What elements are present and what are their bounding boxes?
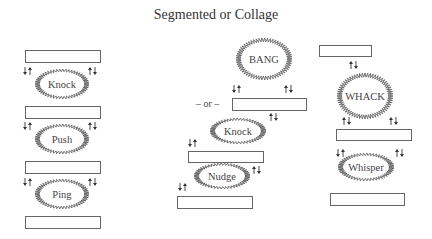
- arrow-down-icon: [257, 166, 261, 174]
- burst-label: Knock: [48, 79, 77, 90]
- burst-label: WHACK: [345, 91, 385, 102]
- segment-box: [337, 130, 412, 141]
- arrow-down-icon: [93, 122, 97, 130]
- burst-whisper: Whisper: [338, 153, 394, 181]
- burst-label: Push: [52, 134, 73, 145]
- arrow-down-icon: [23, 67, 27, 75]
- burst-label: Whisper: [348, 162, 384, 173]
- arrow-down-icon: [289, 85, 293, 93]
- segment-box: [331, 194, 405, 206]
- segment-box: [233, 99, 307, 111]
- arrow-down-icon: [232, 85, 236, 93]
- arrow-up-icon: [237, 85, 241, 93]
- segment-box: [320, 46, 372, 57]
- arrow-down-icon: [354, 61, 358, 69]
- column-segmented: KnockPushPing: [26, 51, 101, 229]
- column-collage-a: BANGKnockNudge: [178, 38, 307, 208]
- burst-label: Knock: [224, 126, 253, 137]
- arrow-up-icon: [389, 117, 393, 125]
- arrow-down-icon: [394, 117, 398, 125]
- arrow-up-icon: [193, 139, 197, 147]
- segment-box: [26, 217, 101, 229]
- burst-label: Ping: [52, 189, 72, 200]
- arrow-down-icon: [188, 139, 192, 147]
- arrow-down-icon: [93, 178, 97, 186]
- arrow-down-icon: [400, 149, 404, 157]
- arrow-up-icon: [28, 178, 32, 186]
- segment-box: [189, 152, 264, 163]
- or-separator: – or –: [195, 98, 220, 109]
- arrow-down-icon: [23, 122, 27, 130]
- burst-ping: Ping: [35, 179, 89, 209]
- burst-knock: Knock: [35, 69, 89, 99]
- arrow-down-icon: [178, 183, 182, 191]
- segment-box: [26, 107, 101, 119]
- arrow-up-icon: [28, 67, 32, 75]
- arrow-up-icon: [284, 85, 288, 93]
- arrow-up-icon: [28, 122, 32, 130]
- arrow-up-icon: [88, 122, 92, 130]
- column-collage-b: WHACKWhisper: [320, 46, 412, 206]
- arrow-down-icon: [274, 113, 278, 121]
- arrow-up-icon: [341, 149, 345, 157]
- arrow-up-icon: [269, 113, 273, 121]
- segment-box: [26, 51, 101, 63]
- arrow-down-icon: [93, 67, 97, 75]
- burst-label: BANG: [249, 54, 279, 65]
- diagram-canvas: KnockPushPingBANGKnockNudgeWHACKWhisper–…: [0, 0, 432, 239]
- arrow-down-icon: [347, 117, 351, 125]
- burst-knock: Knock: [210, 118, 266, 144]
- burst-whack: WHACK: [337, 73, 393, 119]
- burst-nudge: Nudge: [194, 163, 250, 189]
- burst-label: Nudge: [208, 171, 236, 182]
- arrow-up-icon: [88, 67, 92, 75]
- arrow-up-icon: [88, 178, 92, 186]
- arrow-up-icon: [183, 183, 187, 191]
- burst-push: Push: [35, 124, 89, 154]
- arrow-down-icon: [23, 178, 27, 186]
- segment-box: [26, 162, 101, 174]
- arrow-up-icon: [349, 61, 353, 69]
- burst-bang: BANG: [236, 38, 292, 80]
- arrow-up-icon: [395, 149, 399, 157]
- segment-box: [178, 197, 253, 209]
- arrow-up-icon: [342, 117, 346, 125]
- arrow-up-icon: [252, 166, 256, 174]
- arrow-down-icon: [336, 149, 340, 157]
